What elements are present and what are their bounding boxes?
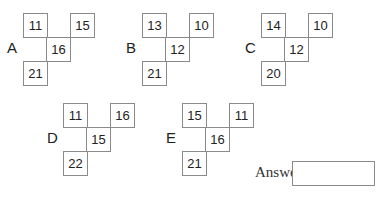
box-bottom-left: 20 (261, 61, 286, 86)
box-top-right: 10 (189, 13, 214, 38)
figure-a: A 11 15 16 21 (13, 13, 113, 93)
box-bottom-left: 21 (182, 151, 207, 176)
box-top-left: 11 (23, 13, 48, 38)
box-bottom-left: 21 (142, 61, 167, 86)
box-top-left: 15 (182, 103, 207, 128)
box-top-left: 14 (261, 13, 286, 38)
box-center: 12 (165, 37, 190, 62)
figure-label: B (126, 39, 136, 56)
box-top-right: 15 (70, 13, 95, 38)
answer-input[interactable] (292, 161, 375, 186)
box-bottom-left: 21 (23, 61, 48, 86)
box-top-right: 10 (308, 13, 333, 38)
box-bottom-left: 22 (63, 151, 88, 176)
box-center: 16 (205, 127, 230, 152)
figure-label: C (245, 39, 256, 56)
figure-b: B 13 10 12 21 (132, 13, 232, 93)
box-top-left: 11 (63, 103, 88, 128)
box-center: 16 (46, 37, 71, 62)
figure-c: C 14 10 12 20 (251, 13, 351, 93)
box-top-right: 11 (229, 103, 254, 128)
box-center: 12 (284, 37, 309, 62)
box-top-left: 13 (142, 13, 167, 38)
figure-label: A (7, 39, 17, 56)
box-center: 15 (86, 127, 111, 152)
figure-label: D (47, 129, 58, 146)
box-top-right: 16 (110, 103, 135, 128)
figure-label: E (166, 129, 176, 146)
figure-d: D 11 16 15 22 (53, 103, 153, 183)
